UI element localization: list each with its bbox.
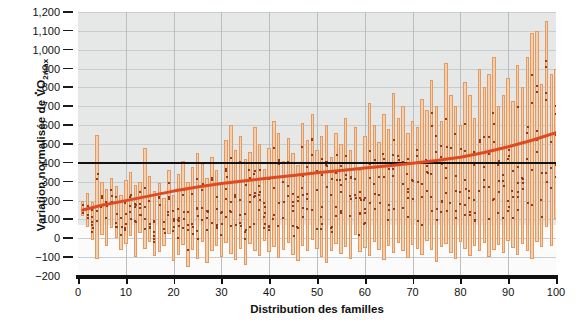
data-point — [159, 204, 161, 206]
data-point — [254, 170, 256, 172]
range-bar — [382, 114, 385, 260]
data-point — [350, 177, 352, 179]
data-point — [292, 205, 294, 207]
data-point — [320, 216, 322, 218]
data-point — [326, 186, 328, 188]
range-bar — [487, 74, 490, 257]
data-point — [182, 194, 184, 196]
data-point — [129, 205, 131, 207]
data-point — [182, 227, 184, 229]
data-point — [468, 197, 470, 199]
data-point — [363, 199, 365, 201]
range-bar — [234, 150, 237, 260]
data-point — [292, 193, 294, 195]
range-bar — [330, 157, 333, 250]
data-point — [144, 218, 146, 220]
data-point — [140, 214, 142, 216]
y-axis-tick-label: 0 — [0, 233, 60, 243]
data-point — [349, 215, 351, 217]
data-point — [207, 211, 209, 213]
data-point — [177, 237, 179, 239]
data-point — [473, 164, 475, 166]
data-point — [321, 223, 323, 225]
data-point — [431, 210, 433, 212]
data-point — [364, 197, 366, 199]
data-point — [335, 172, 337, 174]
data-point — [459, 203, 461, 205]
data-point — [201, 207, 203, 209]
y-axis-tick — [63, 237, 73, 239]
data-point — [508, 149, 510, 151]
range-bar — [172, 195, 175, 261]
data-point — [153, 241, 155, 243]
data-point — [522, 178, 524, 180]
data-point — [555, 105, 556, 107]
data-point — [268, 226, 270, 228]
data-point — [134, 206, 136, 208]
data-point — [259, 191, 261, 193]
y-axis-tick-label: 1,000 — [0, 45, 60, 55]
data-point — [330, 227, 332, 229]
range-bar — [497, 106, 500, 245]
data-point — [101, 197, 103, 199]
data-point — [183, 211, 185, 213]
data-point — [354, 194, 356, 196]
data-point — [226, 176, 228, 178]
data-point — [245, 184, 247, 186]
data-point — [392, 175, 394, 177]
data-point — [440, 145, 442, 147]
y-axis-tick-label: 500 — [0, 139, 60, 149]
range-bar — [545, 21, 548, 227]
x-axis-tick — [365, 275, 367, 284]
data-point — [550, 187, 552, 189]
x-axis-tick-label: 20 — [154, 286, 194, 298]
data-point — [264, 212, 266, 214]
range-bar — [244, 159, 247, 265]
y-axis-tick-label: 600 — [0, 120, 60, 130]
data-point — [153, 238, 155, 240]
range-bar — [430, 80, 433, 250]
data-point — [526, 132, 528, 134]
data-point — [374, 208, 376, 210]
y-axis-tick-label: 400 — [0, 158, 60, 168]
range-bar — [100, 182, 103, 235]
data-point — [230, 201, 232, 203]
data-point — [187, 211, 189, 213]
data-point — [105, 203, 107, 205]
data-point — [234, 196, 236, 198]
range-bar — [272, 121, 275, 246]
range-bar — [540, 84, 543, 247]
data-point — [431, 112, 433, 114]
range-bar — [377, 142, 380, 249]
data-point — [321, 158, 323, 160]
data-point — [177, 208, 179, 210]
data-point — [464, 123, 466, 125]
data-point — [202, 183, 204, 185]
y-axis-tick — [63, 86, 73, 88]
data-point — [473, 199, 475, 201]
data-point — [96, 205, 98, 207]
data-point — [436, 208, 438, 210]
data-point — [388, 168, 390, 170]
data-point — [249, 177, 251, 179]
data-point — [550, 141, 552, 143]
data-point — [183, 218, 185, 220]
y-axis-tick-label: 1,100 — [0, 26, 60, 36]
data-point — [96, 210, 98, 212]
y-axis-tick-label: 700 — [0, 101, 60, 111]
data-point — [383, 158, 385, 160]
data-point — [407, 197, 409, 199]
data-point — [378, 176, 380, 178]
range-bar — [301, 123, 304, 246]
x-axis-title: Distribution des familles — [78, 303, 556, 315]
data-point — [115, 222, 117, 224]
data-point — [216, 227, 218, 229]
data-point — [402, 183, 404, 185]
range-bar — [167, 170, 170, 233]
y-axis-tick — [63, 256, 73, 258]
x-axis-tick — [556, 275, 558, 284]
y-axis-tick-label: 200 — [0, 196, 60, 206]
data-point — [225, 188, 227, 190]
data-point — [555, 113, 556, 115]
data-point — [149, 227, 151, 229]
